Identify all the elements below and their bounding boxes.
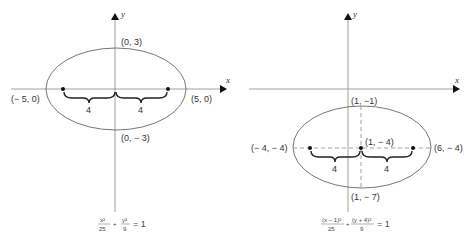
right-point-bottom: (1, − 7) xyxy=(351,192,380,202)
left-point-right: (5, 0) xyxy=(191,94,212,104)
left-point-left: (− 5, 0) xyxy=(11,94,40,104)
right-brace-right-icon xyxy=(362,151,412,162)
right-point-center: (1, − 4) xyxy=(365,137,394,147)
left-eq-term1-den: 25 xyxy=(99,226,106,232)
right-center xyxy=(359,146,363,150)
right-point-right: (6, − 4) xyxy=(434,143,463,153)
right-eq-equals: = 1 xyxy=(377,219,390,229)
left-point-bottom: (0, − 3) xyxy=(121,133,150,143)
right-diagram: x y 4 4 (1, −1) (1, − 4) (1, − 7) (− 4, … xyxy=(249,9,463,232)
right-equation: (x − 1)² 25 + (y + 4)² 9 = 1 xyxy=(321,217,390,232)
right-focal-distance-left: 4 xyxy=(332,164,337,174)
left-focus-left xyxy=(61,87,65,91)
right-y-axis-arrow-icon xyxy=(344,13,352,20)
left-equation: x² 25 + y² 9 = 1 xyxy=(98,217,146,232)
left-diagram: x y 4 4 (0, 3) (0, − 3) (− 5, 0) (5, 0) … xyxy=(11,9,230,232)
right-point-left: (− 4, − 4) xyxy=(251,143,288,153)
left-focal-distance-left: 4 xyxy=(86,105,91,115)
right-y-axis-label: y xyxy=(352,9,357,19)
right-focus-left xyxy=(308,146,312,150)
right-focal-distance-right: 4 xyxy=(384,164,389,174)
left-brace-left-icon xyxy=(64,92,115,103)
left-eq-term2-den: 9 xyxy=(123,226,127,232)
right-brace-left-icon xyxy=(311,151,360,162)
right-eq-term2-num: (y + 4)² xyxy=(352,217,371,223)
right-eq-term1-den: 25 xyxy=(328,226,335,232)
left-x-axis-label: x xyxy=(225,75,230,85)
left-focal-distance-right: 4 xyxy=(138,105,143,115)
right-x-axis-arrow-icon xyxy=(453,85,460,93)
left-y-axis-arrow-icon xyxy=(111,13,119,20)
right-x-axis-label: x xyxy=(454,75,459,85)
right-eq-term2-den: 9 xyxy=(360,226,364,232)
left-x-axis-arrow-icon xyxy=(220,85,227,93)
right-eq-term1-num: (x − 1)² xyxy=(322,217,341,223)
left-brace-right-icon xyxy=(116,92,167,103)
right-eq-plus: + xyxy=(346,221,350,227)
left-focus-right xyxy=(166,87,170,91)
ellipse-diagrams: x y 4 4 (0, 3) (0, − 3) (− 5, 0) (5, 0) … xyxy=(0,0,471,245)
left-eq-term1-num: x² xyxy=(100,217,105,223)
left-eq-equals: = 1 xyxy=(133,219,146,229)
left-point-top: (0, 3) xyxy=(121,37,142,47)
left-eq-plus: + xyxy=(113,221,117,227)
right-point-top: (1, −1) xyxy=(351,96,377,106)
left-y-axis-label: y xyxy=(120,9,125,19)
left-eq-term2-num: y² xyxy=(122,217,127,223)
right-focus-right xyxy=(411,146,415,150)
